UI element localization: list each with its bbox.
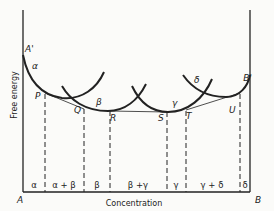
region-gamma-delta: γ + δ <box>201 180 224 190</box>
label-alpha-curve: α <box>32 61 38 71</box>
label-delta-curve: δ <box>194 75 200 85</box>
label-point-q: Q <box>74 105 81 115</box>
free-energy-diagram: A' B' α β γ δ P Q R S T U α α + β β β +γ… <box>0 0 274 211</box>
label-corner-b: B <box>255 195 261 205</box>
region-alpha: α <box>31 180 37 190</box>
region-alpha-beta: α + β <box>52 180 76 190</box>
label-corner-a: A <box>16 195 23 205</box>
region-delta: δ <box>242 180 247 190</box>
x-axis-title: Concentration <box>106 199 163 208</box>
label-point-t: T <box>186 111 193 121</box>
label-point-p: P <box>35 91 41 101</box>
y-axis-title: Free energy <box>10 71 19 119</box>
region-beta: β <box>94 180 99 190</box>
region-beta-gamma: β +γ <box>128 180 148 190</box>
label-point-r: R <box>110 113 116 123</box>
label-gamma-curve: γ <box>172 98 178 108</box>
label-a-prime: A' <box>24 44 34 54</box>
label-point-u: U <box>229 105 236 115</box>
label-b-prime: B' <box>243 73 252 83</box>
label-point-s: S <box>158 113 164 123</box>
region-gamma: γ <box>173 180 178 190</box>
label-beta-curve: β <box>95 97 102 107</box>
